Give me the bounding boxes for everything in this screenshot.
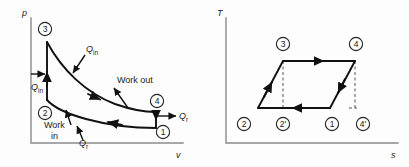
ts-state-3: 3 (276, 37, 289, 50)
ts-state-2-prime-label: 2' (280, 119, 287, 129)
pv-y-axis-label: p (21, 8, 27, 18)
figure-panel: p v (0, 0, 409, 167)
temperature-entropy-diagram: T s (204, 0, 409, 167)
pv-state-1-label: 1 (161, 127, 166, 137)
ts-process-4-to-1 (330, 61, 355, 108)
ts-state-4-prime-label: 4' (360, 119, 367, 129)
pv-work-in-label-line2: in (51, 131, 58, 141)
ts-state-1: 1 (325, 117, 338, 130)
pv-x-axis-label: v (176, 150, 181, 160)
ts-x-axis-label: s (391, 150, 396, 160)
ts-y-axis-label: T (217, 8, 224, 18)
pv-state-4: 4 (150, 94, 163, 107)
pv-state-1: 1 (156, 125, 169, 138)
ts-state-4: 4 (349, 37, 362, 50)
ts-state-2: 2 (237, 117, 250, 130)
ts-state-1-label: 1 (330, 119, 335, 129)
ts-state-2-prime: 2' (276, 117, 289, 130)
pv-heat-in-boiler-leader (73, 55, 85, 73)
pv-state-3: 3 (38, 22, 51, 35)
pressure-volume-diagram: p v (0, 0, 205, 167)
pv-work-out-label: Work out (117, 75, 153, 85)
pv-state-3-label: 3 (43, 24, 48, 34)
ts-state-3-label: 3 (281, 39, 286, 49)
ts-axes (226, 18, 398, 143)
pv-state-2: 2 (38, 106, 51, 119)
ts-state-4-prime: 4' (356, 117, 369, 130)
ts-state-2-label: 2 (242, 119, 247, 129)
pv-heat-rejected-right-label: Qr (179, 111, 189, 123)
pv-state-4-label: 4 (155, 96, 160, 106)
pv-work-in-label-line1: Work (44, 120, 65, 130)
pv-heat-in-pump-label: Qin (31, 82, 43, 94)
ts-state-4-label: 4 (354, 39, 359, 49)
pv-heat-rejected-lower-label: Qr (79, 138, 89, 150)
ts-process-2-to-3 (258, 61, 283, 108)
ts-dashed-guides (283, 61, 357, 108)
pv-state-2-label: 2 (43, 108, 48, 118)
pv-heat-in-boiler-label: Qin (86, 44, 98, 56)
